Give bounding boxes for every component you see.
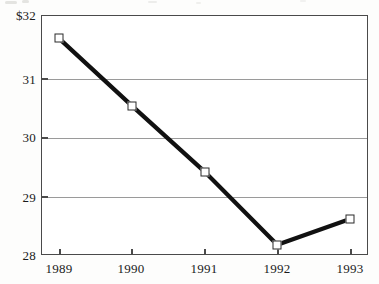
data-point-1992	[273, 240, 282, 249]
data-point-1991	[200, 167, 209, 176]
line-chart: $32 31 30 29 28 1989 1990 1991 1992 1993	[0, 0, 379, 284]
data-point-1993	[346, 215, 355, 224]
data-point-1989	[55, 34, 64, 43]
data-point-1990	[127, 101, 136, 110]
